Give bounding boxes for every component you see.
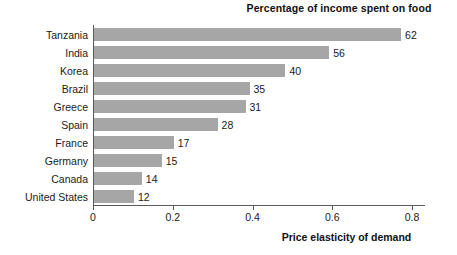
plot-area: Tanzania62India56Korea40Brazil35Greece31… — [93, 25, 420, 205]
bar-value-label: 15 — [162, 155, 178, 167]
chart-row: Tanzania62 — [93, 26, 420, 44]
x-tick-label: 0.4 — [245, 211, 260, 223]
chart-row: Canada14 — [93, 170, 420, 188]
category-label: France — [55, 137, 88, 149]
bar — [94, 118, 218, 131]
bar — [94, 190, 134, 203]
bar-value-label: 56 — [329, 47, 345, 59]
chart-row: Germany15 — [93, 152, 420, 170]
category-label: Brazil — [62, 83, 88, 95]
x-tick — [412, 205, 413, 210]
bar-value-label: 14 — [142, 173, 158, 185]
x-tick-label: 0.8 — [405, 211, 420, 223]
category-label: India — [65, 47, 88, 59]
x-tick — [93, 205, 94, 210]
chart-row: Brazil35 — [93, 80, 420, 98]
bar — [94, 172, 142, 185]
bar-value-label: 12 — [134, 191, 150, 203]
bar-value-label: 40 — [285, 65, 301, 77]
bar — [94, 136, 174, 149]
bar — [94, 46, 329, 59]
category-label: Korea — [60, 65, 88, 77]
x-tick-label: 0 — [90, 211, 96, 223]
bar-value-label: 17 — [174, 137, 190, 149]
bar-value-label: 62 — [401, 29, 417, 41]
bar-value-label: 28 — [218, 119, 234, 131]
chart-row: United States12 — [93, 188, 420, 206]
bar — [94, 64, 285, 77]
chart-row: France17 — [93, 134, 420, 152]
x-tick — [253, 205, 254, 210]
category-label: Tanzania — [46, 29, 88, 41]
chart-row: Korea40 — [93, 62, 420, 80]
x-tick — [173, 205, 174, 210]
category-label: Canada — [51, 173, 88, 185]
bar-value-label: 31 — [246, 101, 262, 113]
bar — [94, 154, 162, 167]
x-axis-title: Price elasticity of demand — [240, 231, 453, 243]
x-tick-label: 0.6 — [325, 211, 340, 223]
chart-row: Spain28 — [93, 116, 420, 134]
category-label: Spain — [61, 119, 88, 131]
chart-row: Greece31 — [93, 98, 420, 116]
category-label: United States — [25, 191, 88, 203]
x-tick-label: 0.2 — [165, 211, 180, 223]
bar — [94, 28, 401, 41]
category-label: Germany — [45, 155, 88, 167]
category-label: Greece — [54, 101, 88, 113]
bar-chart: Percentage of income spent on food Tanza… — [0, 0, 457, 255]
bar — [94, 100, 246, 113]
chart-title: Percentage of income spent on food — [225, 2, 453, 14]
chart-row: India56 — [93, 44, 420, 62]
bar-value-label: 35 — [250, 83, 266, 95]
x-tick — [332, 205, 333, 210]
bar — [94, 82, 250, 95]
